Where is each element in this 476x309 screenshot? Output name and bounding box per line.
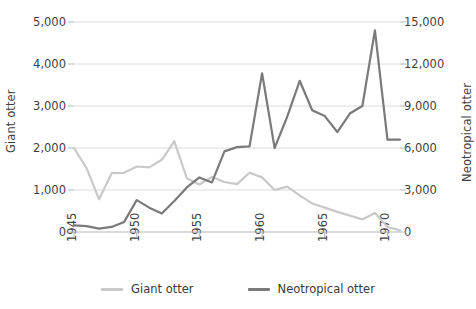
legend-item[interactable]: Giant otter [101,282,193,296]
plot-area [0,0,476,309]
otter-catch-line-chart: Giant otter Neotropical otter 01,0002,00… [0,0,476,309]
series-line-neotropical-otter [74,30,400,228]
x-axis-tick-marks [74,232,387,238]
chart-legend: Giant otterNeotropical otter [0,282,476,296]
legend-item[interactable]: Neotropical otter [248,282,375,296]
series-line-giant-otter [74,141,400,230]
legend-label: Giant otter [131,282,193,296]
data-series-lines [74,30,400,230]
legend-line-swatch-icon [101,288,123,291]
legend-line-swatch-icon [248,288,270,291]
legend-label: Neotropical otter [278,282,375,296]
y-axis-right-tick-marks [400,22,406,232]
gridlines [74,22,400,232]
y-axis-left-tick-marks [68,22,74,232]
